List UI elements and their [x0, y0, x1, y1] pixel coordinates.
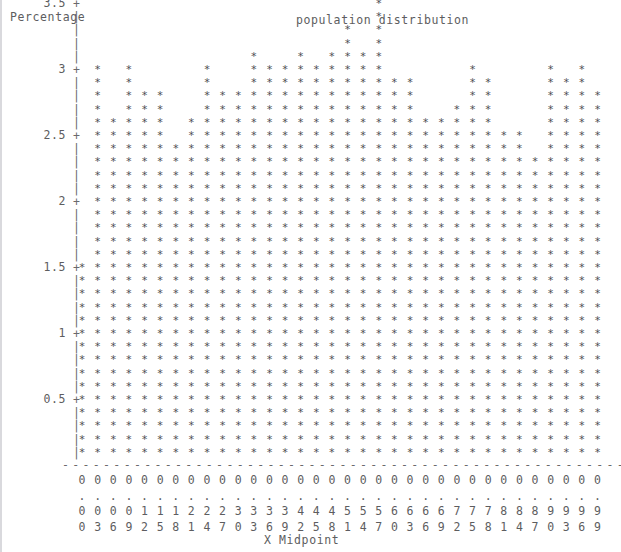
data-mark-star: *: [592, 222, 602, 233]
data-mark-star: *: [483, 315, 493, 326]
data-mark-star: *: [530, 262, 540, 273]
x-tick-char: 0: [124, 504, 134, 518]
x-tick-char: .: [483, 489, 493, 503]
data-mark-star: *: [452, 407, 462, 418]
data-mark-star: *: [77, 275, 87, 286]
x-tick-char: 2: [202, 504, 212, 518]
data-mark-star: *: [77, 302, 87, 313]
data-mark-star: *: [343, 407, 353, 418]
data-mark-star: *: [405, 315, 415, 326]
data-mark-star: *: [592, 315, 602, 326]
data-mark-star: *: [561, 275, 571, 286]
data-mark-star: *: [249, 249, 259, 260]
x-tick-char: 0: [389, 520, 399, 534]
data-mark-star: *: [374, 236, 384, 247]
data-mark-star: *: [577, 64, 587, 75]
data-mark-star: *: [202, 196, 212, 207]
data-mark-star: *: [499, 381, 509, 392]
data-mark-star: *: [311, 354, 321, 365]
data-mark-star: *: [311, 90, 321, 101]
data-mark-star: *: [389, 196, 399, 207]
data-mark-star: *: [374, 104, 384, 115]
data-mark-star: *: [514, 328, 524, 339]
data-mark-star: *: [483, 90, 493, 101]
y-axis-segment: |: [72, 77, 81, 90]
data-mark-star: *: [452, 328, 462, 339]
data-mark-star: *: [296, 302, 306, 313]
data-mark-star: *: [186, 222, 196, 233]
x-tick-char: 6: [264, 520, 274, 534]
x-tick-char: 7: [374, 520, 384, 534]
data-mark-star: *: [202, 315, 212, 326]
x-tick-char: 5: [343, 504, 353, 518]
data-mark-star: *: [561, 302, 571, 313]
data-mark-star: *: [124, 328, 134, 339]
data-mark-star: *: [468, 262, 478, 273]
x-tick-char: 0: [108, 504, 118, 518]
data-mark-star: *: [546, 117, 556, 128]
y-axis-segment: |: [72, 104, 81, 117]
data-mark-star: *: [93, 288, 103, 299]
data-mark-star: *: [296, 275, 306, 286]
data-mark-star: *: [186, 236, 196, 247]
data-mark-star: *: [124, 209, 134, 220]
data-mark-star: *: [452, 249, 462, 260]
x-tick-char: 3: [280, 504, 290, 518]
data-mark-star: *: [108, 328, 118, 339]
data-mark-star: *: [327, 275, 337, 286]
x-tick-char: 0: [546, 520, 556, 534]
data-mark-star: *: [296, 341, 306, 352]
data-mark-star: *: [108, 236, 118, 247]
data-mark-star: *: [452, 302, 462, 313]
data-mark-star: *: [374, 143, 384, 154]
data-mark-star: *: [389, 354, 399, 365]
data-mark-star: *: [280, 354, 290, 365]
data-mark-star: *: [374, 328, 384, 339]
data-mark-star: *: [327, 196, 337, 207]
x-tick-char: 0: [499, 473, 509, 487]
data-mark-star: *: [93, 196, 103, 207]
data-mark-star: *: [546, 434, 556, 445]
data-mark-star: *: [139, 288, 149, 299]
data-mark-star: *: [108, 183, 118, 194]
data-mark-star: *: [514, 209, 524, 220]
data-mark-star: *: [436, 143, 446, 154]
data-mark-star: *: [155, 222, 165, 233]
data-mark-star: *: [436, 117, 446, 128]
data-mark-star: *: [436, 170, 446, 181]
data-mark-star: *: [280, 209, 290, 220]
data-mark-star: *: [389, 143, 399, 154]
data-mark-star: *: [233, 183, 243, 194]
data-mark-star: *: [155, 341, 165, 352]
data-mark-star: *: [124, 262, 134, 273]
data-mark-star: *: [327, 420, 337, 431]
data-mark-star: *: [514, 183, 524, 194]
data-mark-star: *: [561, 447, 571, 458]
data-mark-star: *: [249, 64, 259, 75]
data-mark-star: *: [233, 341, 243, 352]
x-tick-char: 4: [296, 504, 306, 518]
data-mark-star: *: [436, 209, 446, 220]
data-mark-star: *: [358, 90, 368, 101]
data-mark-star: *: [468, 77, 478, 88]
data-mark-star: *: [327, 249, 337, 260]
data-mark-star: *: [452, 354, 462, 365]
data-mark-star: *: [280, 315, 290, 326]
data-mark-star: *: [233, 328, 243, 339]
x-tick-char: .: [468, 489, 478, 503]
data-mark-star: *: [421, 341, 431, 352]
data-mark-star: *: [296, 196, 306, 207]
data-mark-star: *: [249, 394, 259, 405]
data-mark-star: *: [296, 262, 306, 273]
x-tick-char: 0: [405, 473, 415, 487]
data-mark-star: *: [389, 394, 399, 405]
data-mark-star: *: [530, 236, 540, 247]
data-mark-star: *: [327, 288, 337, 299]
data-mark-star: *: [249, 275, 259, 286]
x-tick-char: 0: [514, 473, 524, 487]
data-mark-star: *: [264, 407, 274, 418]
data-mark-star: *: [343, 302, 353, 313]
data-mark-star: *: [280, 156, 290, 167]
data-mark-star: *: [405, 328, 415, 339]
data-mark-star: *: [233, 394, 243, 405]
